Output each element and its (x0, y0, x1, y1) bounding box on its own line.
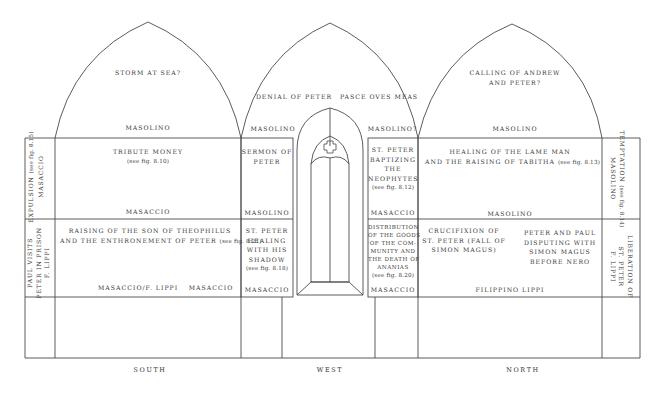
upper-north-main-artist: MASOLINO (465, 209, 555, 219)
lunette-north-artist: MASOLINO (470, 124, 560, 134)
lower-south-pilaster-scene: PAUL VISITS PETER IN PRISON F. LIPPI (26, 213, 52, 313)
wall-label-south: SOUTH (120, 366, 180, 374)
upper-west-left-scene: SERMON OF PETER (241, 147, 293, 166)
lunette-west-left-scene: DENIAL OF PETER (254, 92, 334, 102)
lower-west-left-artist: MASACCIO (241, 285, 293, 295)
lower-north-pilaster-scene: LIBERATION OF ST. PETER F. LIPPI (608, 217, 634, 317)
lunette-west-left-artist: MASOLINO (248, 124, 298, 134)
upper-south-main-artist: MASACCIO (98, 207, 198, 217)
lunette-south-artist: MASOLINO (98, 123, 198, 133)
window-diagram (297, 108, 363, 295)
lunette-north-scene: CALLING OF ANDREW AND PETER? (460, 68, 570, 87)
lower-west-right-artist: MASACCIO (368, 285, 418, 295)
lunette-west-right-scene: PASCE OVES MEAS (339, 92, 419, 102)
upper-west-left-artist: MASOLINO (241, 208, 293, 218)
lower-north-left-scene: CRUCIFIXION OF ST. PETER (FALL OF SIMON … (421, 226, 507, 255)
wall-label-west: WEST (300, 366, 360, 374)
upper-south-main-scene: TRIBUTE MONEY (see fig. 8.10) (88, 147, 208, 166)
lunette-south-arch (55, 22, 241, 138)
upper-north-main-scene: HEALING OF THE LAME MAN AND THE RAISING … (425, 147, 595, 167)
upper-west-right-artist: MASACCIO (368, 208, 418, 218)
upper-west-right-scene: ST. PETER BAPTIZING THE NEOPHYTES (see f… (368, 145, 418, 193)
lower-south-main-artist-left: MASACCIO/F. LIPPI (98, 283, 173, 293)
lunette-south-scene: STORM AT SEA? (88, 68, 208, 78)
upper-north-pilaster-artist: MASOLINO (609, 144, 618, 214)
lower-south-main-artist-right: MASACCIO (186, 283, 236, 293)
chapel-elevation-diagram (0, 0, 657, 396)
lower-west-left-scene: ST. PETER HEALING WITH HIS SHADOW (see f… (241, 226, 293, 274)
wall-label-north: NORTH (493, 366, 553, 374)
upper-south-pilaster-artist: MASACCIO (36, 132, 45, 222)
lower-south-main-scene: RAISING OF THE SON OF THEOPHILUS AND THE… (60, 226, 240, 246)
lower-west-right-scene: DISTRIBUTION OF THE GOODS OF THE COM- MU… (368, 223, 418, 279)
lunette-west-right-artist: MASOLINO? (365, 124, 420, 134)
lunette-west-arch (241, 23, 418, 138)
lower-north-right-scene: PETER AND PAUL DISPUTING WITH SIMON MAGU… (522, 228, 598, 266)
lower-north-artist: FILIPPINO LIPPI (460, 285, 560, 295)
